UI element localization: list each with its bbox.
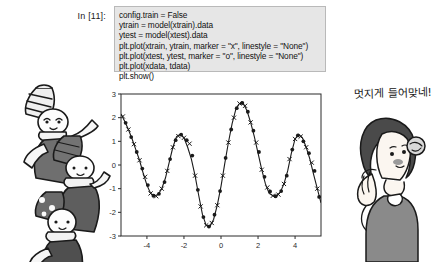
x-tick-label: 2: [256, 241, 260, 250]
notebook-cell: In [11]: config.train = False ytrain = m…: [56, 6, 326, 72]
marker-o: [296, 134, 300, 138]
marker-o: [163, 180, 167, 184]
marker-o: [207, 225, 211, 229]
code-line: ytest = model(xtest).data: [119, 30, 321, 40]
marker-o: [240, 101, 244, 105]
marker-o: [246, 110, 250, 114]
marker-o: [229, 128, 233, 132]
plot-frame: [121, 94, 321, 236]
marker-o: [268, 190, 272, 194]
marker-o: [190, 154, 194, 158]
marker-o: [157, 192, 161, 196]
marker-o: [140, 167, 144, 171]
marker-o: [257, 150, 261, 154]
marker-o: [313, 169, 317, 173]
chart-svg: -4-20243210-1-2-3: [104, 88, 326, 256]
code-line: plt.plot(xtest, ytest, marker = "o", lin…: [119, 51, 321, 61]
x-tick-label: 0: [219, 241, 223, 250]
korean-annotation-text: 멋지게 들어맞네!: [344, 83, 442, 106]
marker-o: [168, 157, 172, 161]
marker-o: [202, 215, 206, 219]
code-line: ytrain = model(xtrain).data: [119, 20, 321, 30]
code-editor[interactable]: config.train = False ytrain = model(xtra…: [114, 6, 326, 72]
marker-o: [196, 188, 200, 192]
x-tick-label: -4: [144, 241, 151, 250]
marker-o: [185, 138, 189, 142]
marker-o: [213, 213, 217, 217]
code-line: plt.show(): [119, 71, 321, 81]
marker-o: [129, 135, 133, 139]
marker-o: [252, 129, 256, 133]
code-line: plt.plot(xtrain, ytrain, marker = "x", l…: [119, 41, 321, 51]
marker-o: [263, 175, 267, 179]
marker-o: [290, 148, 294, 152]
marker-o: [224, 156, 228, 160]
left-character-illustration: [2, 74, 124, 262]
marker-o: [302, 139, 306, 143]
screenshot-root: In [11]: config.train = False ytrain = m…: [0, 0, 445, 263]
marker-o: [179, 133, 183, 137]
code-line: config.train = False: [119, 10, 321, 20]
marker-o: [279, 189, 283, 193]
code-line: plt.plot(xdata, tdata): [119, 61, 321, 71]
marker-o: [274, 194, 278, 198]
marker-o: [135, 150, 139, 154]
x-tick-label: -2: [181, 241, 188, 250]
marker-o: [174, 138, 178, 142]
marker-o: [235, 106, 239, 110]
marker-o: [152, 194, 156, 198]
marker-o: [218, 189, 222, 193]
x-tick-label: 4: [293, 241, 297, 250]
marker-o: [317, 195, 321, 199]
plot-output: -4-20243210-1-2-3: [104, 88, 326, 256]
marker-o: [307, 151, 311, 155]
marker-o: [285, 174, 289, 178]
marker-o: [146, 183, 150, 187]
right-character-illustration: [342, 104, 442, 262]
marker-o: [124, 121, 128, 125]
cell-prompt-label: In [11]:: [56, 11, 106, 21]
